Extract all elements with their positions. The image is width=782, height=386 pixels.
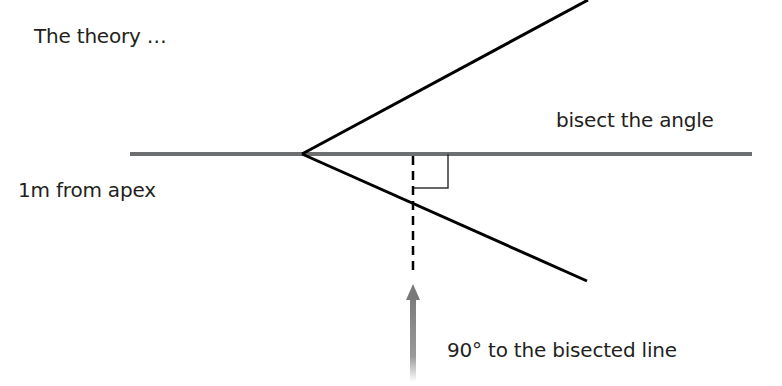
arrow-up-icon [406, 284, 420, 382]
upper-arm-line [302, 0, 588, 154]
lower-arm-line [302, 154, 587, 281]
angle-diagram [0, 0, 782, 386]
right-angle-marker [413, 154, 448, 188]
